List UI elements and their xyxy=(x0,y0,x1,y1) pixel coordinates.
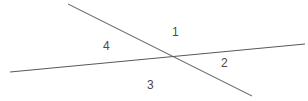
steep-transversal-line xyxy=(68,4,252,96)
angle-label-2: 2 xyxy=(221,57,228,69)
angle-diagram: 1 2 3 4 xyxy=(0,0,308,101)
diagram-lines-svg xyxy=(0,0,308,101)
angle-label-3: 3 xyxy=(147,79,154,91)
angle-label-1: 1 xyxy=(172,26,179,38)
angle-label-4: 4 xyxy=(103,40,110,52)
